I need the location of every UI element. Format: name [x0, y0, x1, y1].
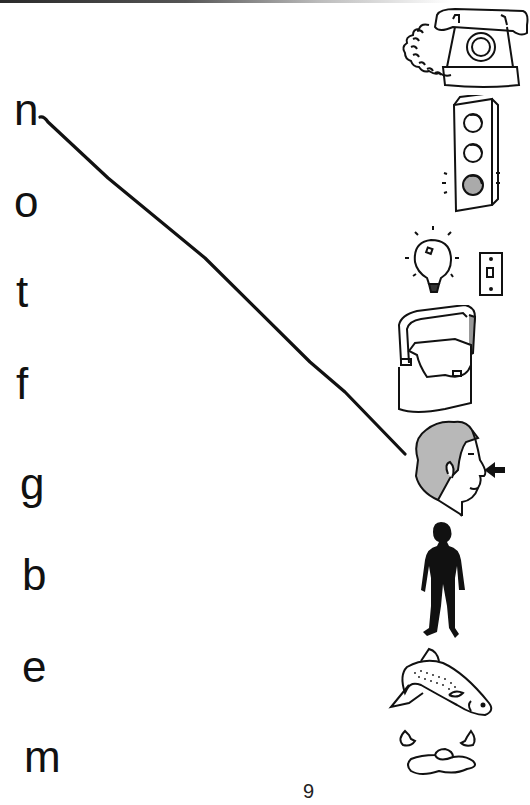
light-bulb-and-switch-icon [393, 218, 528, 300]
page-number: 9 [303, 780, 314, 803]
traffic-light-icon [440, 95, 530, 220]
head-nose-icon [408, 420, 530, 520]
egg-icon [395, 725, 485, 780]
telephone-icon [395, 5, 530, 90]
fish-icon [385, 645, 500, 720]
bag-icon [395, 305, 485, 417]
body-silhouette-icon [415, 520, 475, 640]
